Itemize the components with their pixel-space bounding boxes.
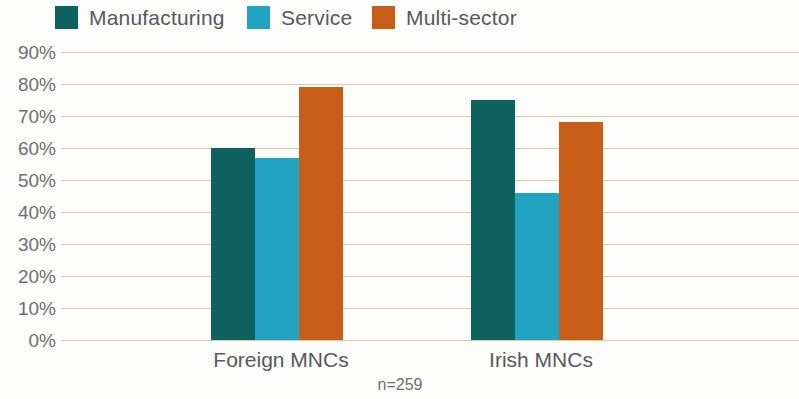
gridline-90 xyxy=(62,52,799,53)
y-axis-tick-50: 50% xyxy=(0,171,56,190)
sample-size-footnote: n=259 xyxy=(300,376,500,394)
legend-item-manufacturing: Manufacturing xyxy=(55,6,225,29)
legend-label-multi-sector: Multi-sector xyxy=(406,6,517,29)
legend-label-manufacturing: Manufacturing xyxy=(89,6,225,29)
bar-foreign-mncs-multi-sector xyxy=(299,87,343,340)
gridline-50 xyxy=(62,180,799,181)
y-axis: 90%80%70%60%50%40%30%20%10%0% xyxy=(0,52,56,340)
bar-foreign-mncs-manufacturing xyxy=(211,148,255,340)
x-axis-baseline xyxy=(62,340,799,341)
y-axis-tick-70: 70% xyxy=(0,107,56,126)
gridline-70 xyxy=(62,116,799,117)
bar-irish-mncs-service xyxy=(515,193,559,340)
legend-swatch-service xyxy=(247,6,270,29)
x-axis-label-foreign-mncs: Foreign MNCs xyxy=(151,348,411,372)
y-axis-tick-10: 10% xyxy=(0,299,56,318)
legend-item-service: Service xyxy=(247,6,352,29)
y-axis-tick-90: 90% xyxy=(0,43,56,62)
gridline-30 xyxy=(62,244,799,245)
gridline-10 xyxy=(62,308,799,309)
y-axis-tick-60: 60% xyxy=(0,139,56,158)
x-axis-label-irish-mncs: Irish MNCs xyxy=(411,348,671,372)
y-axis-tick-20: 20% xyxy=(0,267,56,286)
gridline-80 xyxy=(62,84,799,85)
legend-item-multi-sector: Multi-sector xyxy=(372,6,517,29)
gridline-40 xyxy=(62,212,799,213)
bar-irish-mncs-manufacturing xyxy=(471,100,515,340)
legend-label-service: Service xyxy=(281,6,352,29)
y-axis-tick-80: 80% xyxy=(0,75,56,94)
legend-swatch-multi-sector xyxy=(372,6,395,29)
legend-swatch-manufacturing xyxy=(55,6,78,29)
bar-chart: Manufacturing Service Multi-sector 90%80… xyxy=(0,0,799,399)
chart-legend: Manufacturing Service Multi-sector xyxy=(0,0,799,40)
bar-foreign-mncs-service xyxy=(255,158,299,340)
y-axis-tick-30: 30% xyxy=(0,235,56,254)
gridline-60 xyxy=(62,148,799,149)
bar-irish-mncs-multi-sector xyxy=(559,122,603,340)
gridline-20 xyxy=(62,276,799,277)
bar-group-foreign-mncs xyxy=(211,52,343,340)
y-axis-tick-40: 40% xyxy=(0,203,56,222)
plot-area xyxy=(62,52,799,340)
y-axis-tick-0: 0% xyxy=(0,331,56,350)
bar-group-irish-mncs xyxy=(471,52,603,340)
